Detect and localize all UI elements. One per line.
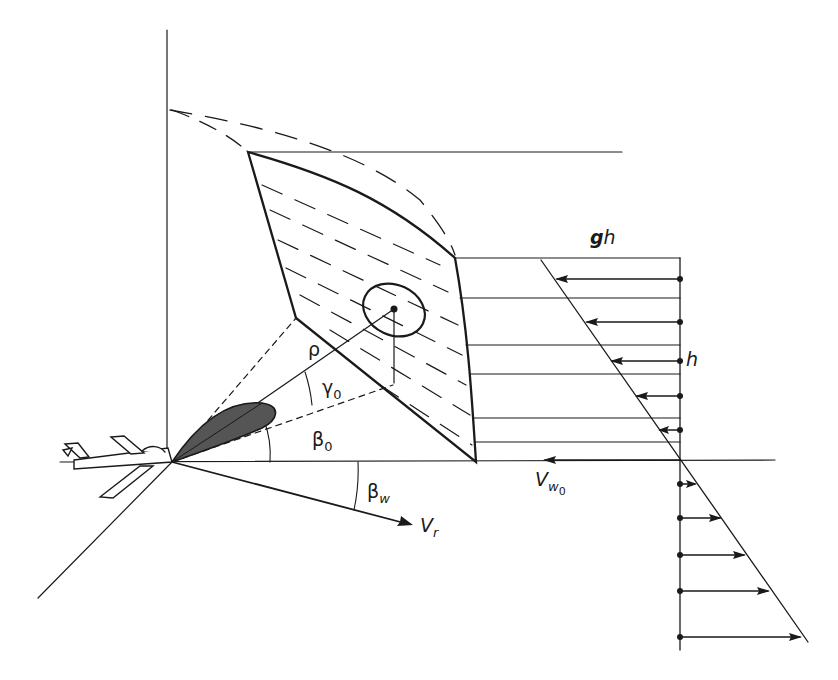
label-rho: ρ bbox=[308, 340, 320, 359]
surface-hatching bbox=[262, 185, 472, 445]
depth-axis bbox=[38, 462, 172, 598]
label-vr-sub: r bbox=[433, 525, 438, 540]
label-betaw-symbol: β bbox=[367, 480, 379, 502]
label-vw0-sub-0: 0 bbox=[559, 485, 566, 498]
gamma0-angle-arc bbox=[305, 372, 312, 405]
label-betaw-sub: w bbox=[379, 491, 390, 506]
aircraft-icon bbox=[63, 436, 172, 498]
betaw-angle-arc bbox=[354, 462, 358, 510]
diagram-canvas bbox=[0, 0, 838, 680]
lower-wind-arrows bbox=[680, 484, 800, 637]
upper-wind-arrows bbox=[545, 279, 680, 460]
label-vr-symbol: V bbox=[420, 514, 433, 536]
antenna-beam-lobe bbox=[172, 403, 276, 462]
label-beta0: β0 bbox=[312, 430, 332, 453]
label-vw0-sub: w0 bbox=[548, 479, 566, 494]
label-vr: Vr bbox=[420, 516, 438, 539]
upper-arrowheads bbox=[543, 275, 669, 464]
illuminated-surface-outline bbox=[248, 152, 476, 462]
label-beta0-symbol: β bbox=[312, 428, 324, 450]
label-gamma-symbol: γ bbox=[322, 376, 333, 398]
wind-profile-levels bbox=[455, 258, 680, 442]
label-gh-h: h bbox=[604, 226, 616, 248]
label-gamma-sub: 0 bbox=[333, 387, 341, 402]
label-vw0-symbol: V bbox=[535, 468, 548, 490]
back-surface-dashed-lower bbox=[172, 110, 248, 152]
label-beta0-sub: 0 bbox=[324, 439, 332, 454]
target-point bbox=[391, 306, 398, 313]
label-betaw: βw bbox=[367, 482, 390, 505]
wind-shear-gradient-line bbox=[541, 260, 808, 642]
radar-wind-shear-diagram: gh h ρ γ0 β0 βw Vr Vw0 bbox=[0, 0, 838, 680]
lower-arrowheads bbox=[686, 480, 802, 641]
label-vw0: Vw0 bbox=[535, 470, 566, 497]
label-gh-g: g bbox=[590, 226, 604, 248]
back-surface-dashed-upper bbox=[170, 110, 455, 255]
label-gh: gh bbox=[590, 228, 616, 247]
label-vw0-sub-w: w bbox=[548, 479, 559, 494]
label-h: h bbox=[686, 350, 698, 369]
label-gamma0: γ0 bbox=[322, 378, 342, 401]
